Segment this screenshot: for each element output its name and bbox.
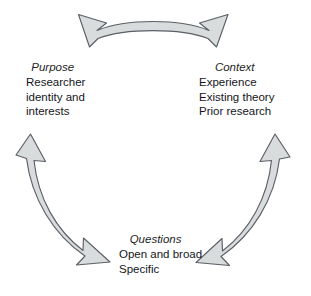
node-context-title: Context — [199, 60, 274, 75]
node-context-line-2: Existing theory — [199, 90, 274, 105]
node-purpose: Purpose Researcher identity and interest… — [26, 60, 85, 119]
node-questions-title: Questions — [119, 232, 202, 247]
node-purpose-line-1: Researcher — [26, 75, 85, 90]
node-purpose-line-3: interests — [26, 104, 85, 119]
node-questions-lines: Open and broad Specific — [119, 247, 202, 276]
node-purpose-title: Purpose — [26, 60, 85, 75]
node-context-line-3: Prior research — [199, 104, 274, 119]
node-questions-line-1: Open and broad — [119, 247, 202, 262]
research-design-diagram: Purpose Researcher identity and interest… — [0, 0, 311, 296]
node-questions-line-2: Specific — [119, 262, 202, 277]
node-context: Context Experience Existing theory Prior… — [199, 60, 274, 119]
node-context-line-1: Experience — [199, 75, 274, 90]
node-context-lines: Experience Existing theory Prior researc… — [199, 75, 274, 119]
left-double-arrow — [16, 134, 110, 265]
node-questions: Questions Open and broad Specific — [119, 232, 202, 276]
node-purpose-lines: Researcher identity and interests — [26, 75, 85, 119]
right-double-arrow — [196, 134, 290, 266]
top-double-arrow — [79, 15, 229, 48]
node-purpose-line-2: identity and — [26, 90, 85, 105]
